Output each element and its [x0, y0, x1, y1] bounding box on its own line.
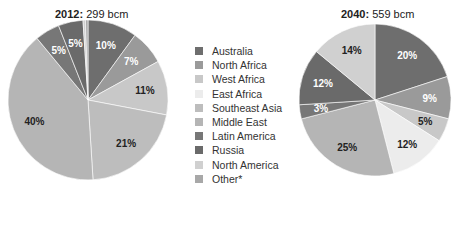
legend-swatch [195, 47, 203, 55]
legend-item: Middle East [195, 115, 282, 129]
legend-swatch [195, 118, 203, 126]
slice-label: 3% [314, 103, 329, 114]
legend-swatch [195, 75, 203, 83]
slice-label: 12% [313, 78, 333, 89]
legend-label: Other* [212, 173, 242, 185]
slice-label: 10% [96, 40, 116, 51]
legend-item: West Africa [195, 72, 282, 86]
slice-label: 11% [135, 85, 155, 96]
slice-label: 40% [24, 116, 44, 127]
legend-swatch [195, 175, 203, 183]
slice-label: 12% [397, 139, 417, 150]
legend-label: North Africa [212, 59, 267, 71]
legend-swatch [195, 132, 203, 140]
legend-label: Russia [212, 144, 244, 156]
slice-label: 21% [116, 138, 136, 149]
legend-item: Russia [195, 143, 282, 157]
slice-label: 5% [68, 38, 83, 49]
legend-item: North America [195, 158, 282, 172]
legend-item: Other* [195, 172, 282, 186]
slice-label: 20% [397, 50, 417, 61]
slice-label: 5% [418, 116, 433, 127]
legend-label: North America [212, 159, 279, 171]
slice-label: 25% [337, 142, 357, 153]
legend-label: Australia [212, 45, 253, 57]
legend-item: Southeast Asia [195, 101, 282, 115]
legend-item: East Africa [195, 87, 282, 101]
legend-swatch [195, 146, 203, 154]
legend-swatch [195, 161, 203, 169]
legend-label: East Africa [212, 88, 262, 100]
slice-label: 7% [124, 56, 139, 67]
legend-label: Latin America [212, 130, 276, 142]
slice-label: 14% [342, 45, 362, 56]
legend-item: North Africa [195, 58, 282, 72]
legend-swatch [195, 61, 203, 69]
legend-label: Middle East [212, 116, 267, 128]
slice-label: 5% [51, 45, 66, 56]
slice-label: 9% [422, 93, 437, 104]
legend-label: West Africa [212, 73, 265, 85]
legend-item: Latin America [195, 129, 282, 143]
legend-swatch [195, 104, 203, 112]
legend-item: Australia [195, 44, 282, 58]
legend-label: Southeast Asia [212, 102, 282, 114]
legend-swatch [195, 90, 203, 98]
chart-legend: AustraliaNorth AfricaWest AfricaEast Afr… [195, 44, 282, 186]
